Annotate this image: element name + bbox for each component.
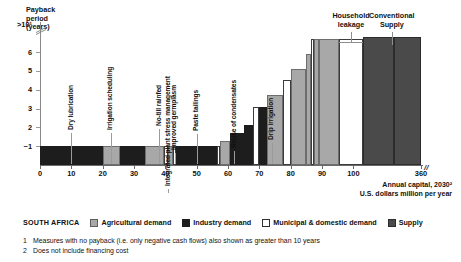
- x-axis-tick-label: 100: [341, 169, 365, 178]
- x-axis-tick-label: 360: [409, 169, 433, 178]
- x-axis-tick-label: 80: [279, 169, 303, 178]
- measure-callout-leader-line: [71, 133, 72, 164]
- x-axis-tick-label: 10: [59, 169, 83, 178]
- measure-callout-leader-line: [272, 143, 273, 164]
- y-axis-tick-label: 3: [6, 104, 32, 113]
- x-axis-tick-mark: [353, 165, 354, 169]
- legend-item-industry-demand: Industry demand: [182, 218, 251, 227]
- x-axis-tick-mark: [322, 165, 323, 169]
- x-axis-tick-label: 0: [28, 169, 52, 178]
- footnote-1-text: Measures with no payback (i.e. only nega…: [33, 236, 320, 246]
- legend-swatch-agricultural-demand: [90, 219, 98, 227]
- legend-region-label: SOUTH AFRICA: [23, 218, 79, 227]
- chart-root: Payback period (years) >10¹65432~1 01020…: [0, 0, 461, 262]
- group-callout-stem: [351, 32, 352, 42]
- x-axis-tick-mark: [291, 165, 292, 169]
- y-axis-tick-label: ~1: [6, 142, 32, 151]
- y-axis-break-icon: [35, 26, 47, 35]
- legend-label-agricultural-demand: Agricultural demand: [101, 218, 171, 227]
- bar-segment: [145, 146, 164, 165]
- group-callout-stem: [392, 32, 393, 45]
- group-callout-label: Conventional Supply: [352, 12, 432, 29]
- bar-segment: [291, 69, 307, 165]
- footnote-2-text: Does not include financing cost: [33, 246, 128, 256]
- x-axis-tick-mark: [259, 165, 260, 169]
- legend-item-municipal-domestic-demand: Municipal & domestic demand: [262, 218, 376, 227]
- y-axis-tick-label: 5: [6, 66, 32, 75]
- legend-label-supply: Supply: [399, 218, 423, 227]
- measure-callout-leader-line: [159, 129, 160, 164]
- y-axis-tick-mark: [36, 127, 40, 128]
- bar-segment: [220, 141, 229, 165]
- x-axis-tick-mark: [228, 165, 229, 169]
- measure-callout-leader-line: [175, 153, 176, 164]
- bar-segment: [319, 39, 339, 165]
- x-axis-tick-label: 60: [216, 169, 240, 178]
- group-callout: Conventional Supply: [352, 12, 432, 29]
- chart-legend: SOUTH AFRICA Agricultural demand Industr…: [23, 218, 430, 227]
- y-axis-line: [40, 22, 41, 165]
- legend-item-agricultural-demand: Agricultural demand: [90, 218, 171, 227]
- x-axis-line: [40, 165, 423, 166]
- y-axis-tick-label: 6: [6, 48, 32, 57]
- bar-segment: [339, 39, 363, 165]
- x-axis-tick-mark: [421, 165, 422, 169]
- y-axis-tick-mark: [36, 109, 40, 110]
- measure-callout-label: Reuse of condensates: [230, 80, 237, 148]
- x-axis-tick-label: 70: [247, 169, 271, 178]
- y-axis-tick-mark: [36, 90, 40, 91]
- measure-callout-label: Paste tailings: [192, 90, 199, 131]
- x-axis-caption: Annual capital, 2030² U.S. dollars milli…: [360, 180, 452, 198]
- x-axis-break-icon: //: [424, 163, 428, 172]
- y-axis-tick-label: >10¹: [6, 20, 32, 29]
- x-axis-tick-label: 50: [185, 169, 209, 178]
- chart-footnotes: 1 Measures with no payback (i.e. only ne…: [23, 236, 320, 256]
- x-axis-tick-mark: [71, 165, 72, 169]
- footnote-1-marker: 1: [23, 236, 29, 246]
- x-axis-tick-mark: [197, 165, 198, 169]
- legend-label-municipal-domestic-demand: Municipal & domestic demand: [273, 218, 376, 227]
- x-axis-tick-mark: [103, 165, 104, 169]
- y-axis-tick-mark: [36, 52, 40, 53]
- footnote-2: 2 Does not include financing cost: [23, 246, 320, 256]
- measure-callout-label: Drip irrigation: [267, 98, 274, 140]
- x-axis-tick-label: 90: [310, 169, 334, 178]
- measure-callout-label: Improved germplasm: [170, 85, 177, 150]
- y-axis-tick-mark: [36, 71, 40, 72]
- measure-callout-leader-line: [197, 134, 198, 164]
- x-axis-tick-label: 20: [91, 169, 115, 178]
- group-callout-bracket: [339, 42, 363, 43]
- y-axis-tick-label: 2: [6, 123, 32, 132]
- measure-callout-label: Irrigation scheduling: [106, 67, 113, 130]
- legend-item-supply: Supply: [388, 218, 423, 227]
- bar-segment: [363, 37, 395, 165]
- x-axis-tick-mark: [134, 165, 135, 169]
- footnote-2-marker: 2: [23, 246, 29, 256]
- legend-swatch-supply: [388, 219, 396, 227]
- legend-swatch-municipal-domestic-demand: [262, 219, 270, 227]
- bar-segment: [259, 107, 267, 165]
- legend-swatch-industry-demand: [182, 219, 190, 227]
- y-axis-tick-label: 4: [6, 85, 32, 94]
- measure-callout-label: Dry lubrication: [67, 85, 74, 130]
- bar-segment: [120, 146, 145, 165]
- x-axis-tick-mark: [40, 165, 41, 169]
- x-axis-tick-label: 30: [122, 169, 146, 178]
- measure-callout-label: No-till rainfed: [155, 85, 162, 126]
- bar-segment: [244, 125, 253, 165]
- bar-segment: [283, 80, 291, 165]
- legend-label-industry-demand: Industry demand: [193, 218, 251, 227]
- measure-callout-leader-line: [111, 133, 112, 164]
- bar-segment: [394, 37, 421, 165]
- measure-callout-leader-line: [168, 189, 169, 193]
- measure-callout-leader-line: [234, 151, 235, 164]
- footnote-1: 1 Measures with no payback (i.e. only ne…: [23, 236, 320, 246]
